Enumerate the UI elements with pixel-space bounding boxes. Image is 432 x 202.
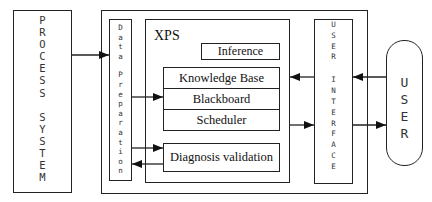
connection-arrows <box>0 0 432 202</box>
